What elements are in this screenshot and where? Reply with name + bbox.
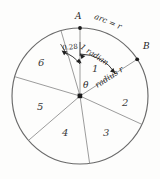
sector-label-6: 6 <box>38 58 44 68</box>
center-vertex-dot <box>78 94 83 99</box>
point-a-label: A <box>75 12 82 21</box>
remainder-value-label: 0.28 <box>62 44 78 52</box>
sector-label-1: 1 <box>92 64 98 74</box>
radius-line-6 <box>61 31 80 96</box>
point-b-label: B <box>143 42 150 51</box>
radian-arc-arrow-start <box>80 54 85 59</box>
radius-line-3 <box>80 96 90 163</box>
point-a-dot <box>78 26 82 30</box>
theta-angle-label: θ <box>83 81 88 90</box>
radius-line-2 <box>80 96 142 124</box>
sector-label-3: 3 <box>103 128 109 138</box>
sector-label-4: 4 <box>62 128 68 138</box>
point-b-dot <box>135 57 139 61</box>
figure-canvas: A B arc = r 1 radian 0.28 radius r θ 1 2… <box>0 0 160 179</box>
sector-label-2: 2 <box>122 98 128 108</box>
diagram-svg <box>0 0 160 179</box>
radius-line-5 <box>15 77 80 96</box>
sector-label-5: 5 <box>37 102 43 112</box>
